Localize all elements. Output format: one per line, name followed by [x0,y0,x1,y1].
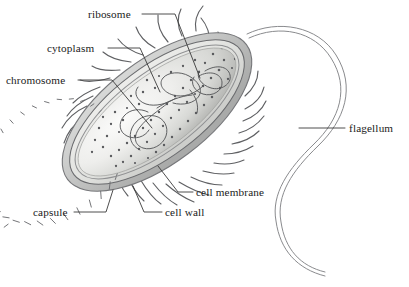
label-capsule: capsule [33,206,68,218]
diagram-canvas: ribosome cytoplasm chromosome flagellum … [0,0,409,287]
label-cell-wall: cell wall [165,206,205,218]
bacterial-cell-diagram: ribosome cytoplasm chromosome flagellum … [0,0,409,287]
label-ribosome: ribosome [88,8,131,20]
label-flagellum: flagellum [349,122,393,134]
label-chromosome: chromosome [6,74,65,86]
label-cytoplasm: cytoplasm [47,42,94,54]
label-cell-membrane: cell membrane [196,186,264,198]
